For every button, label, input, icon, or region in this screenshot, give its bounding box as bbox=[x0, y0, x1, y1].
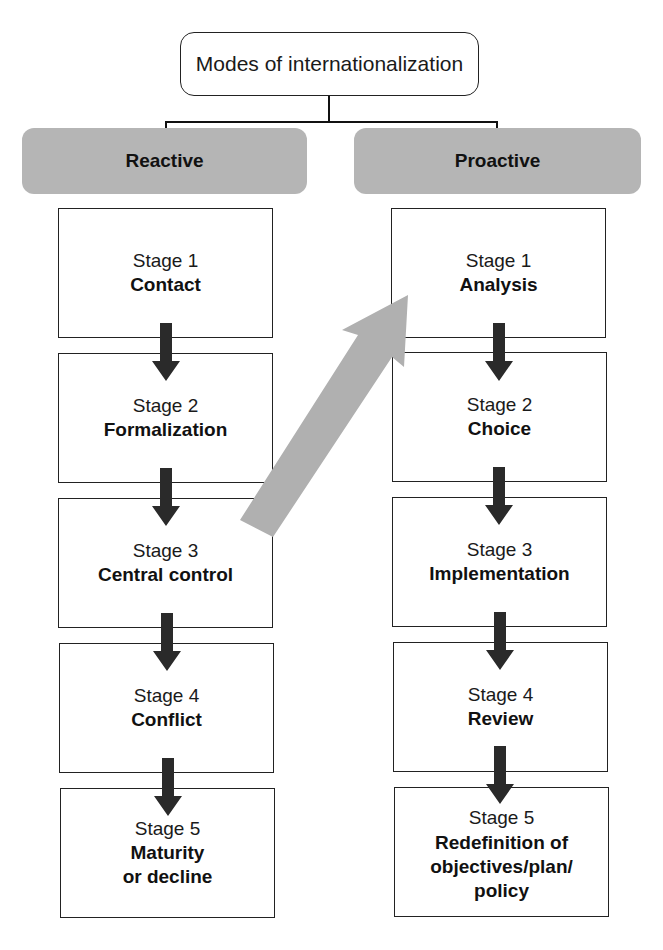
mode-header-reactive: Reactive bbox=[22, 128, 307, 194]
connector-horizontal bbox=[165, 121, 498, 123]
root-node-label: Modes of internationalization bbox=[196, 52, 463, 76]
reactive-stage-1: Stage 1 Contact bbox=[58, 208, 273, 338]
down-arrow-icon bbox=[153, 613, 181, 671]
stage-name: Review bbox=[468, 707, 533, 731]
down-arrow-icon bbox=[154, 758, 182, 816]
stage-number: Stage 4 bbox=[468, 683, 534, 707]
mode-header-proactive: Proactive bbox=[354, 128, 641, 194]
down-arrow-icon bbox=[485, 467, 513, 525]
stage-number: Stage 4 bbox=[134, 684, 200, 708]
down-arrow-icon bbox=[486, 612, 514, 670]
stage-name: Choice bbox=[468, 417, 531, 441]
root-node-modes-of-internationalization: Modes of internationalization bbox=[180, 32, 479, 96]
stage-number: Stage 3 bbox=[133, 539, 199, 563]
stage-name-line-1: Redefinition of bbox=[435, 831, 568, 855]
stage-number: Stage 1 bbox=[466, 249, 532, 273]
stage-name: Central control bbox=[98, 563, 233, 587]
mode-header-label: Reactive bbox=[125, 150, 203, 172]
stage-name-line-3: policy bbox=[474, 879, 529, 903]
stage-number: Stage 5 bbox=[469, 806, 535, 830]
mode-header-label: Proactive bbox=[455, 150, 541, 172]
down-arrow-icon bbox=[152, 323, 180, 381]
proactive-stage-5: Stage 5 Redefinition of objectives/plan/… bbox=[394, 787, 609, 917]
stage-number: Stage 3 bbox=[467, 538, 533, 562]
stage-name: Contact bbox=[130, 273, 201, 297]
stage-name-line-2: objectives/plan/ bbox=[430, 855, 573, 879]
stage-number: Stage 2 bbox=[467, 393, 533, 417]
stage-name: Analysis bbox=[459, 273, 537, 297]
down-arrow-icon bbox=[485, 323, 513, 381]
stage-name: Formalization bbox=[104, 418, 228, 442]
stage-number: Stage 1 bbox=[133, 249, 199, 273]
stage-number: Stage 5 bbox=[135, 817, 201, 841]
proactive-stage-1: Stage 1 Analysis bbox=[391, 208, 606, 338]
stage-name: Implementation bbox=[429, 562, 569, 586]
stage-number: Stage 2 bbox=[133, 394, 199, 418]
down-arrow-icon bbox=[486, 746, 514, 804]
down-arrow-icon bbox=[152, 468, 180, 526]
stage-name-line-2: or decline bbox=[123, 865, 213, 889]
connector-root-stem bbox=[328, 96, 330, 122]
stage-name: Conflict bbox=[131, 708, 202, 732]
stage-name-line-1: Maturity bbox=[131, 841, 205, 865]
